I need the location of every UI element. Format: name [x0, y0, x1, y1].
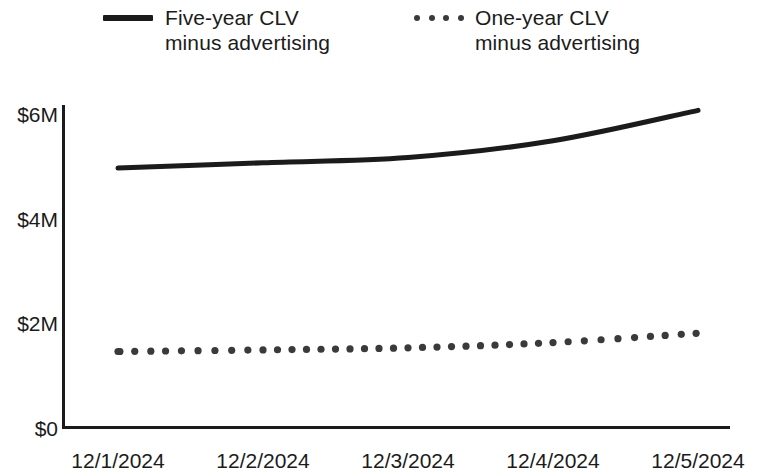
- x-tick-label-4: 12/4/2024: [488, 450, 618, 471]
- plot-canvas: [0, 0, 757, 474]
- y-tick-label-6m: $6M: [0, 104, 58, 125]
- x-tick-label-3: 12/3/2024: [343, 450, 473, 471]
- series-line-one-year-clv: [114, 330, 699, 355]
- series-line-five-year-clv: [118, 110, 698, 168]
- y-tick-label-4m: $4M: [0, 209, 58, 230]
- x-tick-label-2: 12/2/2024: [198, 450, 328, 471]
- x-tick-label-5: 12/5/2024: [633, 450, 757, 471]
- y-tick-label-0: $0: [0, 418, 58, 439]
- x-tick-label-1: 12/1/2024: [53, 450, 183, 471]
- y-tick-label-2m: $2M: [0, 313, 58, 334]
- plot-area: $0 $2M $4M $6M 12/1/2024 12/2/2024 12/3/…: [0, 0, 757, 474]
- clv-line-chart: Five-year CLV minus advertising One-year…: [0, 0, 757, 474]
